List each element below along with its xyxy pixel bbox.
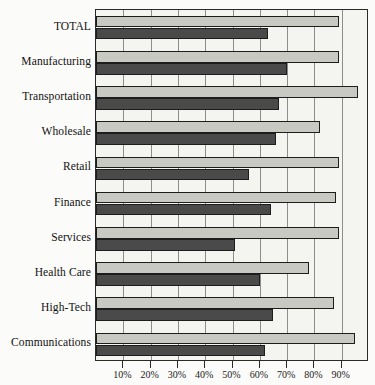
bar-group — [96, 86, 367, 110]
bar-group — [96, 262, 367, 286]
bar-lower — [96, 204, 271, 216]
bar-group — [96, 192, 367, 216]
axis-tick — [259, 361, 260, 368]
axis-tick — [232, 361, 233, 368]
x-tick-label: 60% — [250, 370, 268, 380]
x-tick-label: 10% — [113, 370, 131, 380]
bar-lower — [96, 28, 268, 40]
bar-upper — [96, 121, 320, 133]
plot-area — [95, 9, 368, 361]
axis-tick — [122, 361, 123, 368]
axis-tick — [313, 361, 314, 368]
bar-upper — [96, 86, 358, 98]
category-label-column: TOTALManufacturingTransportationWholesal… — [0, 0, 91, 361]
category-label: Wholesale — [42, 126, 91, 138]
axis-tick — [286, 361, 287, 368]
bar-upper — [96, 192, 336, 204]
bar-group — [96, 51, 367, 75]
bar-lower — [96, 274, 260, 286]
category-label: Services — [51, 232, 91, 244]
bar-group — [96, 227, 367, 251]
category-label: Communications — [11, 337, 91, 349]
bar-group — [96, 16, 367, 40]
x-tick-label: 30% — [168, 370, 186, 380]
bar-lower — [96, 133, 276, 145]
category-label: Transportation — [22, 91, 91, 103]
bar-upper — [96, 16, 339, 28]
x-axis — [95, 361, 368, 369]
category-label: Manufacturing — [21, 56, 91, 68]
bar-lower — [96, 98, 279, 110]
x-tick-label: 20% — [140, 370, 158, 380]
axis-tick — [204, 361, 205, 368]
category-label: Health Care — [35, 267, 91, 279]
axis-tick — [150, 361, 151, 368]
category-label: Retail — [63, 161, 91, 173]
bar-upper — [96, 51, 339, 63]
bar-upper — [96, 262, 309, 274]
bar-group — [96, 157, 367, 181]
x-tick-label: 50% — [222, 370, 240, 380]
bar-lower — [96, 63, 287, 75]
category-label: High-Tech — [41, 302, 91, 314]
x-tick-label: 90% — [332, 370, 350, 380]
x-tick-label: 70% — [277, 370, 295, 380]
bar-lower — [96, 239, 235, 251]
x-tick-label: 40% — [195, 370, 213, 380]
bar-upper — [96, 297, 334, 309]
x-tick-label: 80% — [304, 370, 322, 380]
axis-tick — [341, 361, 342, 368]
bar-group — [96, 333, 367, 357]
x-axis-tick-labels: 10%20%30%40%50%60%70%80%90% — [95, 370, 368, 385]
bar-group — [96, 121, 367, 145]
bar-upper — [96, 157, 339, 169]
bar-upper — [96, 333, 355, 345]
bar-upper — [96, 227, 339, 239]
category-label: Finance — [54, 197, 91, 209]
category-label: TOTAL — [54, 21, 91, 33]
bar-lower — [96, 345, 265, 357]
axis-tick — [177, 361, 178, 368]
bar-group — [96, 297, 367, 321]
bar-lower — [96, 169, 249, 181]
bar-chart-figure: TOTALManufacturingTransportationWholesal… — [0, 0, 375, 385]
bar-lower — [96, 309, 273, 321]
